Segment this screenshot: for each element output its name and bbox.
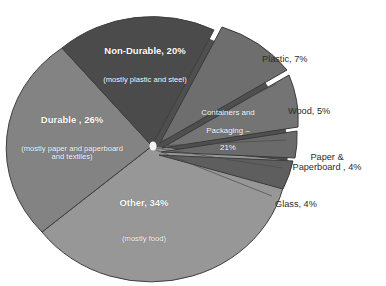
- group-label-line-2: Packaging –: [180, 127, 276, 136]
- pie-label-wood: Wood, 5%: [288, 106, 380, 116]
- pie-label-glass: Glass, 4%: [275, 199, 371, 209]
- pie-label-non-durable-sublabel: (mostly plastic and steel): [86, 76, 204, 85]
- pie-label-paper-paperboard: Paper & Paperboard , 4%: [272, 152, 382, 173]
- pie-label-durable-sublabel: (mostly paper and paperboard and textile…: [16, 145, 128, 162]
- pie-label-durable: Durable , 26% (mostly paper and paperboa…: [16, 97, 128, 180]
- pie-label-non-durable-title: Non-Durable, 20%: [86, 46, 204, 57]
- pie-label-non-durable: Non-Durable, 20% (mostly plastic and ste…: [86, 28, 204, 102]
- pie-label-other-sublabel: (mostly food): [86, 235, 202, 244]
- pie-chart: Non-Durable, 20% (mostly plastic and ste…: [0, 0, 386, 286]
- pie-label-plastic: Plastic, 7%: [262, 54, 372, 64]
- pie-label-other: Other, 34% (mostly food): [86, 180, 202, 261]
- group-label-line-3: 21%: [180, 144, 276, 153]
- pie-label-containers-and-packaging: Containers and Packaging – 21%: [180, 100, 276, 162]
- pie-label-durable-title: Durable , 26%: [16, 115, 128, 126]
- group-label-line-1: Containers and: [180, 109, 276, 118]
- pie-label-other-title: Other, 34%: [86, 198, 202, 209]
- pie-center-marker: [149, 141, 156, 150]
